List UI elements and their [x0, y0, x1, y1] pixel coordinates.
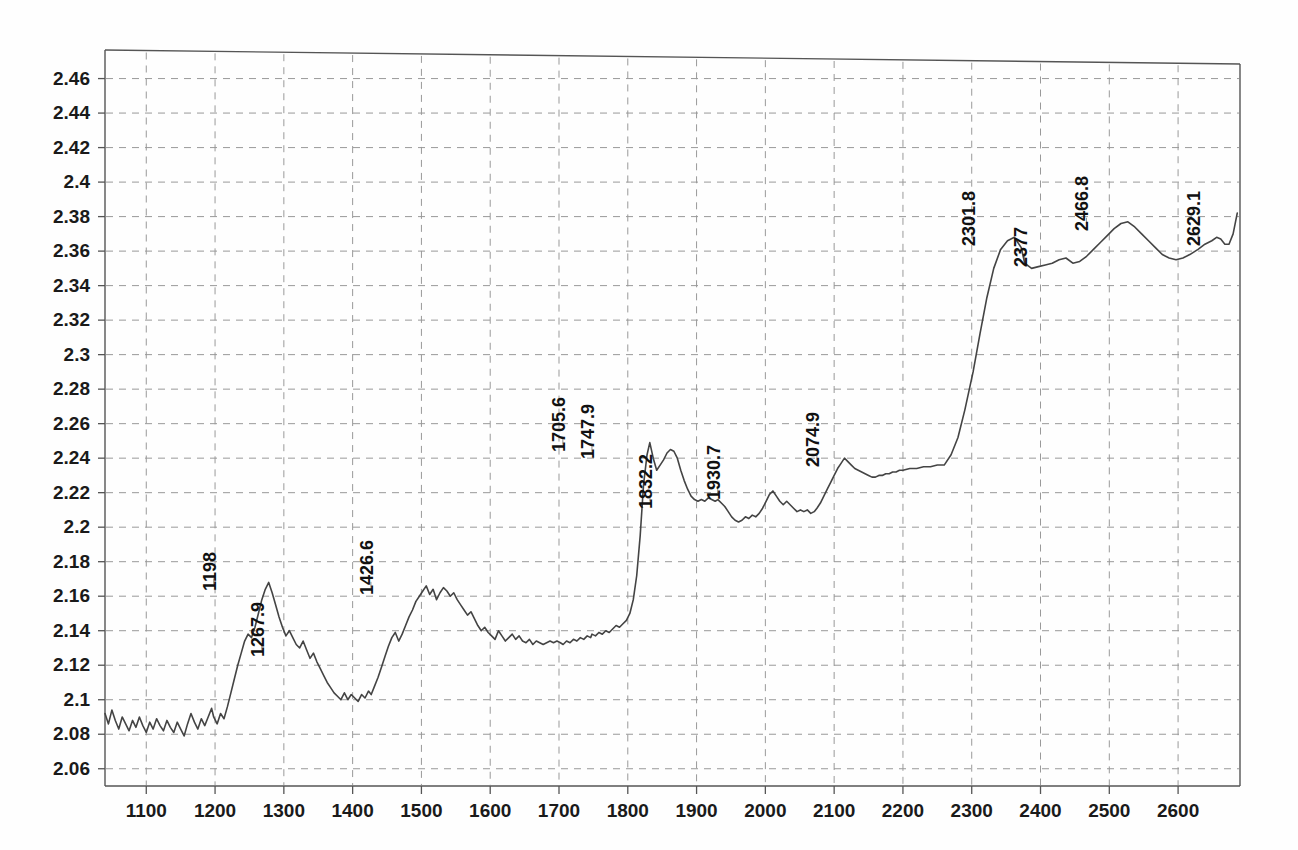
- peak-label: 2377: [1011, 227, 1032, 267]
- axis-ticks: [98, 79, 1178, 794]
- ytick-label: 2.12: [28, 654, 90, 676]
- ytick-label: 2.42: [28, 137, 90, 159]
- ytick-label: 2.26: [28, 413, 90, 435]
- ytick-label: 2.08: [28, 723, 90, 745]
- grid-lines: [106, 53, 1239, 785]
- spectrum-chart-page: 2.462.442.422.42.382.362.342.322.32.282.…: [0, 0, 1298, 850]
- ytick-label: 2.28: [28, 378, 90, 400]
- xtick-label: 2600: [1138, 800, 1218, 822]
- peak-label: 1426.6: [357, 540, 378, 595]
- peak-label: 1747.9: [578, 403, 599, 458]
- ytick-label: 2.14: [28, 620, 90, 642]
- peak-label: 2466.8: [1072, 176, 1093, 231]
- peak-label: 1267.9: [248, 602, 269, 657]
- ytick-label: 2.38: [28, 206, 90, 228]
- peak-label: 2074.9: [803, 412, 824, 467]
- plot-frame: [105, 50, 1240, 786]
- ytick-label: 2.16: [28, 585, 90, 607]
- peak-label: 1198: [200, 552, 221, 591]
- ytick-label: 2.22: [28, 482, 90, 504]
- ytick-label: 2.18: [28, 551, 90, 573]
- frame-top: [105, 50, 1240, 64]
- spectrum-plot: [0, 0, 1298, 850]
- ytick-label: 2.2: [28, 516, 90, 538]
- peak-label: 2301.8: [959, 191, 980, 246]
- ytick-label: 2.32: [28, 309, 90, 331]
- ytick-label: 2.44: [28, 102, 90, 124]
- ytick-label: 2.46: [28, 68, 90, 90]
- ytick-label: 2.24: [28, 447, 90, 469]
- ytick-label: 2.06: [28, 758, 90, 780]
- ytick-label: 2.34: [28, 275, 90, 297]
- ytick-label: 2.36: [28, 240, 90, 262]
- spectrum-curve: [105, 213, 1237, 736]
- peak-label: 1930.7: [704, 445, 725, 500]
- ytick-label: 2.4: [28, 171, 90, 193]
- peak-label: 1705.6: [549, 397, 570, 452]
- peak-label: 2629.1: [1184, 191, 1205, 246]
- peak-label: 1832.2: [636, 454, 657, 509]
- ytick-label: 2.1: [28, 689, 90, 711]
- ytick-label: 2.3: [28, 344, 90, 366]
